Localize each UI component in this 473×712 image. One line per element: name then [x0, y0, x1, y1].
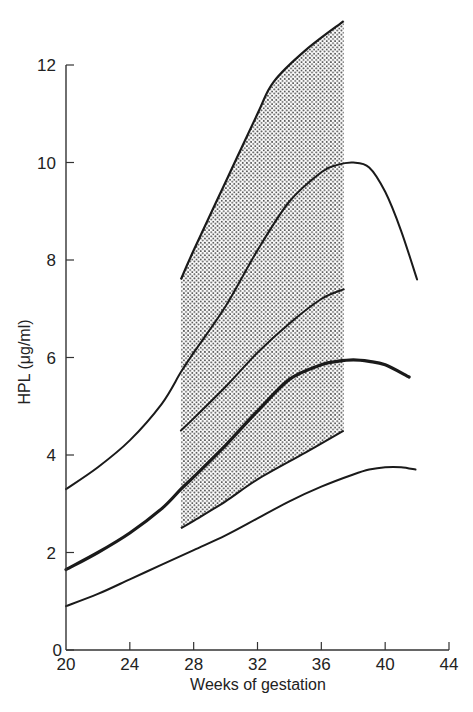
y-tick-label: 4 [47, 446, 56, 465]
x-tick-label: 40 [376, 655, 395, 674]
x-axis: 20242832364044 Weeks of gestation [57, 642, 459, 693]
y-axis-title: HPL (μg/ml) [16, 319, 33, 404]
hpl-chart: 024681012 HPL (μg/ml) 20242832364044 Wee… [0, 0, 473, 712]
y-tick-label: 2 [47, 544, 56, 563]
shaded-band-area [181, 21, 344, 528]
y-tick-label: 12 [37, 56, 56, 75]
x-tick-label: 24 [120, 655, 139, 674]
y-axis: 024681012 HPL (μg/ml) [16, 56, 74, 660]
y-tick-label: 10 [37, 154, 56, 173]
cropped-caption-fragment [0, 704, 473, 712]
x-tick-label: 20 [57, 655, 76, 674]
x-axis-ticks: 20242832364044 [57, 642, 459, 674]
shaded-band [181, 21, 344, 528]
x-tick-label: 32 [248, 655, 267, 674]
y-tick-label: 8 [47, 251, 56, 270]
x-axis-title: Weeks of gestation [190, 676, 326, 693]
y-tick-label: 6 [47, 349, 56, 368]
x-tick-label: 44 [440, 655, 459, 674]
x-tick-label: 36 [312, 655, 331, 674]
x-tick-label: 28 [184, 655, 203, 674]
